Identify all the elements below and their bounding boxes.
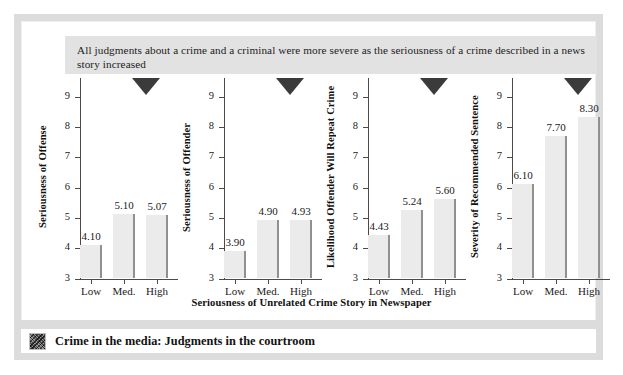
y-tick [363, 279, 369, 280]
bar-value-label: 3.90 [213, 236, 257, 248]
x-tick [91, 279, 92, 284]
shared-x-axis-title: Seriousness of Unrelated Crime Story in … [0, 297, 623, 308]
y-tick-label: 6 [50, 181, 70, 192]
y-tick-label: 4 [338, 241, 358, 252]
y-tick [219, 127, 225, 128]
y-tick [219, 188, 225, 189]
y-tick [507, 127, 513, 128]
y-tick-label: 4 [50, 241, 70, 252]
y-tick [219, 279, 225, 280]
bar [578, 117, 600, 278]
x-tick [124, 279, 125, 284]
y-tick-label: 8 [194, 120, 214, 131]
y-tick [507, 97, 513, 98]
x-tick [301, 279, 302, 284]
y-tick [75, 188, 81, 189]
caption-banner: All judgments about a crime and a crimin… [65, 36, 597, 74]
plot-area: 34567896.10Low7.70Med.8.30High [498, 78, 610, 283]
y-tick [75, 157, 81, 158]
y-axis-title: Likelihood Offender Will Repeat Crime [322, 78, 338, 276]
y-tick-label: 3 [194, 272, 214, 283]
y-tick-label: 4 [482, 241, 502, 252]
y-tick-label: 8 [338, 120, 358, 131]
y-tick-label: 9 [482, 90, 502, 101]
caption-text: All judgments about a crime and a crimin… [77, 44, 585, 70]
footer-title: Crime in the media: Judgments in the cou… [55, 334, 315, 349]
chart-panel-4: Severity of Recommended Sentence34567896… [468, 78, 613, 293]
y-tick [75, 97, 81, 98]
plot-area: 34567894.43Low5.24Med.5.60High [354, 78, 466, 283]
bar [146, 215, 168, 278]
y-tick [75, 218, 81, 219]
y-tick [363, 157, 369, 158]
x-tick [268, 279, 269, 284]
bar-value-label: 6.10 [501, 169, 545, 181]
y-tick-label: 9 [338, 90, 358, 101]
chart-panel-3: Likelihood Offender Will Repeat Crime345… [324, 78, 469, 293]
x-tick [157, 279, 158, 284]
bar [80, 245, 102, 278]
x-tick [379, 279, 380, 284]
footer-bar: Crime in the media: Judgments in the cou… [21, 329, 596, 353]
y-tick-label: 3 [482, 272, 502, 283]
y-tick [75, 127, 81, 128]
x-tick [589, 279, 590, 284]
y-tick-label: 7 [482, 150, 502, 161]
y-tick-label: 5 [482, 211, 502, 222]
x-tick-label: High [281, 285, 321, 297]
y-tick-label: 5 [50, 211, 70, 222]
figure-root: All judgments about a crime and a crimin… [0, 0, 623, 375]
bar-value-label: 8.30 [567, 102, 611, 114]
x-tick-label: High [425, 285, 465, 297]
x-tick [556, 279, 557, 284]
bar-value-label: 4.43 [357, 220, 401, 232]
y-tick [507, 279, 513, 280]
y-tick [219, 248, 225, 249]
bar [224, 251, 246, 278]
y-tick-label: 5 [338, 211, 358, 222]
y-tick [75, 279, 81, 280]
bar-value-label: 5.60 [423, 184, 467, 196]
bar [512, 184, 534, 278]
x-tick-label: High [137, 285, 177, 297]
y-axis-title: Severity of Recommended Sentence [466, 78, 482, 276]
y-tick-label: 9 [194, 90, 214, 101]
y-tick-label: 3 [338, 272, 358, 283]
plot-area: 34567893.90Low4.90Med.4.93High [210, 78, 322, 283]
y-tick-label: 6 [194, 181, 214, 192]
x-axis-line [512, 279, 610, 280]
x-tick [412, 279, 413, 284]
y-tick-label: 4 [194, 241, 214, 252]
bar-value-label: 5.24 [390, 195, 434, 207]
thumbnail-icon [29, 333, 46, 350]
bar-value-label: 5.07 [135, 200, 179, 212]
x-tick [445, 279, 446, 284]
x-axis-line [80, 279, 178, 280]
y-tick [219, 218, 225, 219]
y-tick-label: 6 [482, 181, 502, 192]
bar-value-label: 4.10 [69, 230, 113, 242]
y-tick-label: 7 [194, 150, 214, 161]
bar [290, 220, 312, 278]
y-tick [363, 127, 369, 128]
bar-value-label: 7.70 [534, 121, 578, 133]
x-tick [235, 279, 236, 284]
x-axis-line [224, 279, 322, 280]
y-tick-label: 7 [338, 150, 358, 161]
bar [368, 235, 390, 278]
x-axis-line [368, 279, 466, 280]
y-tick [507, 157, 513, 158]
y-axis-title: Seriousness of Offender [178, 78, 194, 276]
y-tick-label: 6 [338, 181, 358, 192]
x-tick [523, 279, 524, 284]
plot-area: 34567894.10Low5.10Med.5.07High [66, 78, 178, 283]
y-tick [219, 157, 225, 158]
bar [257, 220, 279, 278]
bar [401, 210, 423, 278]
bar [434, 199, 456, 278]
bar [113, 214, 135, 278]
bar-value-label: 4.93 [279, 205, 323, 217]
chart-panel-2: Seriousness of Offender34567893.90Low4.9… [180, 78, 325, 293]
footer-divider [21, 320, 596, 329]
y-tick-label: 7 [50, 150, 70, 161]
